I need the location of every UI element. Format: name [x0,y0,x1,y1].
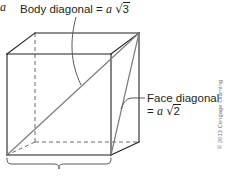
body-diagonal-radical-sign: √ [115,2,122,16]
copyright-notice: © 2013 Cengage Learning [217,65,223,149]
body-diagonal-label: Body diagonal = a √3 [20,3,130,17]
body-diagonal-leader [72,17,81,85]
body-diagonal-radicand: 3 [123,2,130,15]
cube-diagonal-figure: Body diagonal = a √3 Face diagonal = a √… [0,0,236,190]
face-diagonal-variable: a [157,104,163,118]
face-diagonal-radicand: 2 [173,104,180,117]
edge-length-brace [7,158,111,169]
face-diagonal-leader [121,98,145,109]
face-diagonal-label-line2: = a √2 [147,105,219,119]
body-diagonal-variable: a [106,2,112,16]
edge-top-left-receding [7,33,35,54]
face-diagonal-label: Face diagonal = a √2 [147,92,219,119]
body-diagonal-label-prefix: Body diagonal = [20,3,106,15]
edge-bottom-right-receding [111,142,139,155]
face-diagonal-equals: = [147,105,157,117]
hidden-edge-bottom-back-left-to-front-left [7,142,35,155]
body-diagonal-line [7,33,139,155]
